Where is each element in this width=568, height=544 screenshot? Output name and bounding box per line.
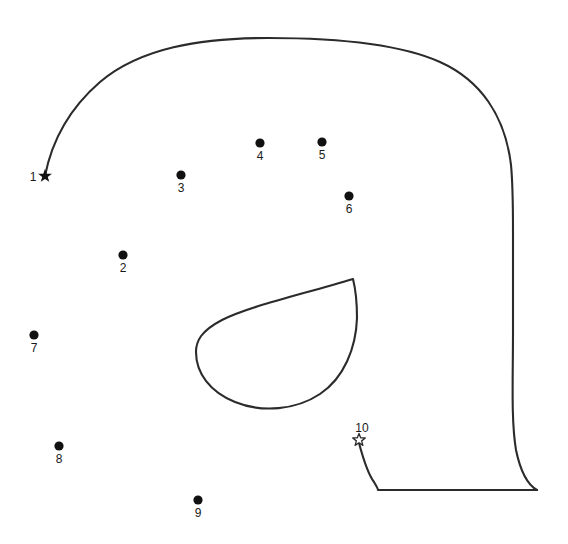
dot-icon[interactable] xyxy=(255,138,264,147)
dot-icon[interactable] xyxy=(344,191,353,200)
point-label: 8 xyxy=(56,452,63,466)
point-7[interactable]: 7 xyxy=(29,330,38,355)
point-label: 9 xyxy=(195,506,202,520)
dot-icon[interactable] xyxy=(29,330,38,339)
point-3[interactable]: 3 xyxy=(176,170,185,195)
dot-icon[interactable] xyxy=(54,441,63,450)
dot-icon[interactable] xyxy=(193,495,202,504)
point-label: 1 xyxy=(30,170,37,184)
dot-icon[interactable] xyxy=(176,170,185,179)
point-label: 5 xyxy=(319,148,326,162)
point-2[interactable]: 2 xyxy=(118,250,127,275)
point-4[interactable]: 4 xyxy=(255,138,264,163)
point-label: 3 xyxy=(178,181,185,195)
canvas-background xyxy=(0,0,568,544)
point-label: 6 xyxy=(346,202,353,216)
point-6[interactable]: 6 xyxy=(344,191,353,216)
point-8[interactable]: 8 xyxy=(54,441,63,466)
dot-icon[interactable] xyxy=(118,250,127,259)
point-label: 4 xyxy=(257,149,264,163)
point-label: 10 xyxy=(355,421,369,435)
point-label: 2 xyxy=(120,261,127,275)
point-5[interactable]: 5 xyxy=(317,137,326,162)
point-label: 7 xyxy=(31,341,38,355)
dot-icon[interactable] xyxy=(317,137,326,146)
point-9[interactable]: 9 xyxy=(193,495,202,520)
connect-the-dots-drawing: 1 2 3 4 5 6 7 xyxy=(0,0,568,544)
puzzle-canvas: 1 2 3 4 5 6 7 xyxy=(0,0,568,544)
